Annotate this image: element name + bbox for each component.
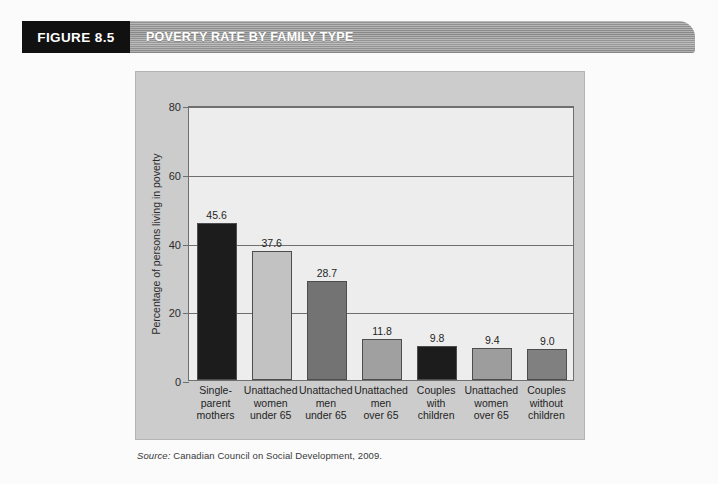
x-axis-label-line: Couples bbox=[409, 384, 464, 397]
bar-value-label: 45.6 bbox=[206, 209, 226, 221]
bar-group: 28.7 bbox=[307, 281, 347, 380]
x-axis-labels: Single-parentmothersUnattachedwomenunder… bbox=[188, 384, 574, 430]
x-axis-label-line: under 65 bbox=[298, 409, 353, 422]
source-label: Source: bbox=[137, 450, 170, 461]
bar-value-label: 9.8 bbox=[430, 332, 445, 344]
x-axis-label: Coupleswithoutchildren bbox=[519, 384, 574, 422]
y-tick-mark bbox=[183, 382, 189, 383]
x-axis-label: Single-parentmothers bbox=[188, 384, 243, 422]
x-axis-label-line: without bbox=[519, 397, 574, 410]
bar bbox=[362, 339, 402, 380]
x-axis-label-line: Unattached bbox=[243, 384, 298, 397]
x-axis-label-line: parent bbox=[188, 397, 243, 410]
x-axis-label-line: Couples bbox=[519, 384, 574, 397]
y-tick-label: 60 bbox=[169, 170, 181, 182]
bar-value-label: 11.8 bbox=[372, 325, 392, 337]
bar bbox=[197, 223, 237, 380]
bar-value-label: 28.7 bbox=[317, 267, 337, 279]
x-axis-label-line: mothers bbox=[188, 409, 243, 422]
x-axis-label: Coupleswithchildren bbox=[409, 384, 464, 422]
bar-group: 45.6 bbox=[197, 223, 237, 380]
x-axis-label: Unattachedmenunder 65 bbox=[298, 384, 353, 422]
x-axis-label-line: men bbox=[298, 397, 353, 410]
y-tick-label: 0 bbox=[175, 376, 181, 388]
x-axis-label: Unattachedmenover 65 bbox=[353, 384, 408, 422]
x-axis-label-line: over 65 bbox=[353, 409, 408, 422]
figure-header: FIGURE 8.5 POVERTY RATE BY FAMILY TYPE bbox=[22, 21, 695, 53]
x-axis-label-line: Unattached bbox=[298, 384, 353, 397]
y-axis-title-text: Percentage of persons living in poverty bbox=[150, 153, 162, 334]
x-axis-label-line: Single- bbox=[188, 384, 243, 397]
figure-number-badge: FIGURE 8.5 bbox=[22, 21, 130, 53]
x-axis-label-line: women bbox=[464, 397, 519, 410]
bar-group: 11.8 bbox=[362, 339, 402, 380]
x-axis-label-line: women bbox=[243, 397, 298, 410]
figure-title: POVERTY RATE BY FAMILY TYPE bbox=[130, 30, 354, 44]
x-axis-label-line: Unattached bbox=[464, 384, 519, 397]
source-text: Canadian Council on Social Development, … bbox=[173, 450, 382, 461]
x-axis-label-line: under 65 bbox=[243, 409, 298, 422]
bar-group: 9.4 bbox=[472, 348, 512, 380]
bar-group: 37.6 bbox=[252, 251, 292, 380]
plot-area: 020406080 45.637.628.711.89.89.49.0 bbox=[188, 106, 574, 381]
x-axis-label-line: men bbox=[353, 397, 408, 410]
y-tick-label: 40 bbox=[169, 239, 181, 251]
bar bbox=[307, 281, 347, 380]
bar-value-label: 9.4 bbox=[485, 334, 500, 346]
y-axis-title: Percentage of persons living in poverty bbox=[148, 106, 164, 381]
x-axis-label: Unattachedwomenover 65 bbox=[464, 384, 519, 422]
bar bbox=[417, 346, 457, 380]
bar-value-label: 9.0 bbox=[540, 335, 555, 347]
x-axis-label-line: with bbox=[409, 397, 464, 410]
bars-layer: 45.637.628.711.89.89.49.0 bbox=[189, 107, 573, 380]
chart-panel: Percentage of persons living in poverty … bbox=[135, 71, 585, 440]
bar-group: 9.0 bbox=[527, 349, 567, 380]
x-axis-label: Unattachedwomenunder 65 bbox=[243, 384, 298, 422]
bar-value-label: 37.6 bbox=[261, 237, 281, 249]
x-axis-label-line: over 65 bbox=[464, 409, 519, 422]
figure-title-bar: POVERTY RATE BY FAMILY TYPE bbox=[130, 21, 695, 53]
y-tick-label: 80 bbox=[169, 101, 181, 113]
bar bbox=[527, 349, 567, 380]
x-axis-label-line: children bbox=[519, 409, 574, 422]
y-tick-label: 20 bbox=[169, 307, 181, 319]
x-axis-label-line: children bbox=[409, 409, 464, 422]
x-axis-label-line: Unattached bbox=[353, 384, 408, 397]
bar bbox=[472, 348, 512, 380]
source-note: Source: Canadian Council on Social Devel… bbox=[137, 450, 382, 461]
bar-group: 9.8 bbox=[417, 346, 457, 380]
bar bbox=[252, 251, 292, 380]
